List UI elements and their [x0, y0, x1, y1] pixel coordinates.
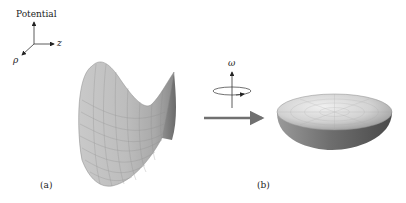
z-axis-label: z [57, 38, 62, 48]
diagram-canvas [0, 0, 406, 203]
panel-a-label: (a) [40, 180, 52, 190]
bowl-surface [277, 94, 392, 150]
rotation-symbol [213, 72, 251, 108]
rho-axis-arrow [22, 44, 34, 55]
potential-axis-label: Potential [16, 9, 57, 19]
saddle-surface [79, 62, 176, 186]
panel-b-label: (b) [257, 180, 270, 190]
rho-axis-label: ρ [13, 55, 18, 65]
axes-triad [22, 22, 54, 55]
rotation-direction-arrow [236, 94, 244, 95]
omega-label: ω [228, 58, 235, 68]
